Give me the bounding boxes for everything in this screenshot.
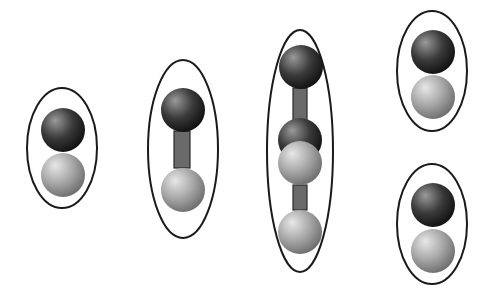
light-sphere <box>411 229 455 273</box>
light-sphere <box>411 75 455 119</box>
dark-sphere <box>411 30 455 74</box>
dark-sphere <box>161 88 205 132</box>
molecule-diagram <box>0 0 488 298</box>
light-sphere <box>161 168 205 212</box>
dark-sphere <box>279 45 323 89</box>
light-sphere <box>278 141 322 185</box>
dark-sphere <box>41 108 85 152</box>
bond-rect <box>293 185 307 210</box>
light-sphere <box>41 153 85 197</box>
bond-rect <box>174 131 190 168</box>
dark-sphere <box>411 183 455 227</box>
light-sphere <box>278 210 322 254</box>
bond-rect <box>293 88 307 121</box>
